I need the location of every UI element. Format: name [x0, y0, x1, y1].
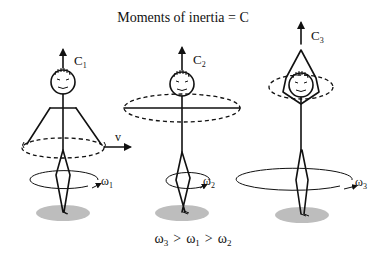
smile	[177, 89, 187, 91]
hands	[23, 142, 106, 148]
omega-rotation-loop	[30, 171, 98, 189]
figure-1: ω1 C1 v	[22, 50, 130, 221]
axis-label: C2	[193, 52, 206, 69]
omega-label: ω1	[101, 174, 113, 190]
head	[289, 73, 313, 97]
omega-arrow-icon	[92, 184, 100, 188]
axis-label: C1	[74, 53, 87, 70]
figure-3: ω3 C3	[236, 23, 367, 223]
overhead-arms	[283, 50, 319, 104]
eyes	[57, 79, 69, 80]
legs	[56, 150, 70, 212]
diagram-title: Moments of inertia = C	[117, 10, 249, 25]
hand-path-circle	[269, 75, 333, 99]
angular-velocity-relation: ω3>ω1>ω2	[155, 231, 232, 248]
smile	[296, 90, 306, 92]
head	[51, 70, 75, 94]
figure-2: ω2 C2	[124, 48, 240, 221]
floor-shadow	[36, 205, 90, 221]
eyes	[176, 81, 188, 82]
axis-label: C3	[311, 28, 324, 45]
smile	[58, 87, 68, 89]
diagram-canvas: Moments of inertia = C ω1 C1 v	[0, 0, 386, 255]
floor-shadow	[155, 205, 209, 221]
eyes	[295, 82, 307, 83]
omega-label: ω3	[355, 175, 367, 191]
legs	[176, 152, 190, 212]
omega-label: ω2	[203, 174, 215, 190]
velocity-label: v	[115, 130, 121, 144]
omega-rotation-loop	[236, 168, 352, 190]
head	[170, 72, 194, 96]
legs	[296, 150, 308, 214]
floor-shadow	[275, 207, 329, 223]
